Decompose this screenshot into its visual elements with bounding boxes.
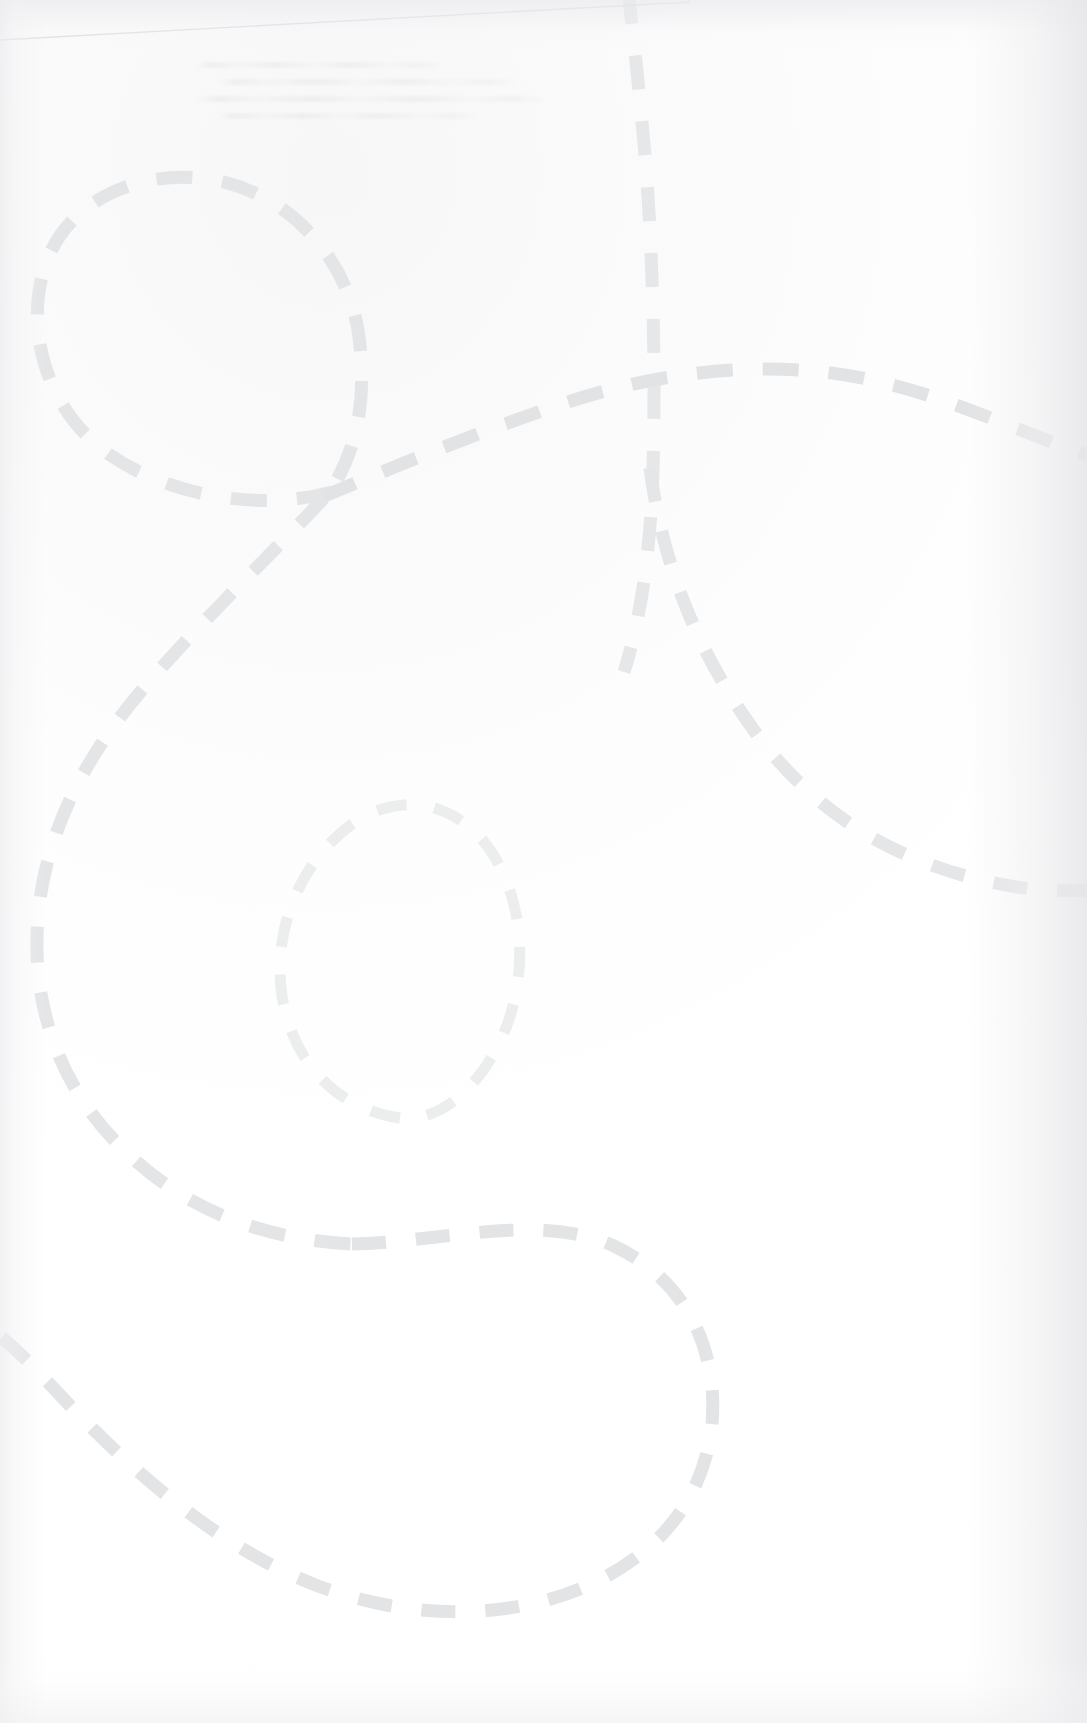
dash-segment-right-descending-arc — [650, 468, 1087, 891]
dash-segment-upper-left-loop — [37, 177, 361, 500]
scanned-page — [0, 0, 1087, 1723]
dash-segment-vertical-branch-top — [624, 0, 654, 672]
dash-segment-inner-small-loop — [280, 805, 520, 1119]
dash-segment-main-crossing-sweep — [322, 369, 1087, 497]
dash-segment-bottom-s-curve — [0, 1230, 713, 1612]
dashed-path-artwork — [0, 0, 1087, 1723]
scan-edge-line — [0, 2, 690, 40]
dashed-path-group — [0, 0, 1087, 1612]
